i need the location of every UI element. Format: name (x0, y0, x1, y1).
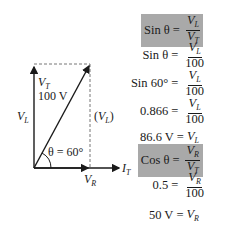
angle-label: θ = 60° (48, 146, 83, 158)
vl-dashed-label: (VL) (94, 110, 114, 127)
vt-value: 100 V (38, 90, 67, 102)
equation-0866: 0.866= VL100 (140, 98, 205, 125)
equation-sin-60: Sin 60°= VL100 (131, 70, 205, 97)
equation-05: 0.5= VR100 (153, 172, 205, 199)
vr-label: VR (84, 173, 96, 190)
it-label: IT (122, 162, 130, 179)
equation-50v: 50 V= VR (149, 207, 199, 223)
equation-sin-theta-100: Sin θ= VL100 (142, 42, 205, 69)
vl-label: VL (17, 110, 29, 127)
